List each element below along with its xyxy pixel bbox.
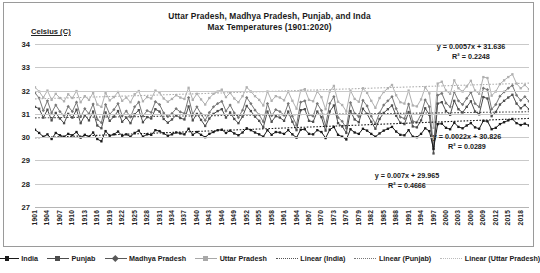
legend-label: Linear (Uttar Pradesh) [465,254,540,263]
y-axis-tick-28: 28 [22,179,30,188]
chart-legend: IndiaPunjabMadhya PradeshUttar PradeshLi… [3,246,534,270]
x-axis-tick-1922: 1922 [119,210,126,225]
x-axis-tick-1973: 1973 [331,210,338,225]
x-axis-tick-1967: 1967 [306,210,313,225]
x-axis-tick-1910: 1910 [69,210,76,225]
chart-frame: Uttar Pradesh, Madhya Pradesh, Punjab, a… [3,2,534,269]
x-axis-tick-2015: 2015 [505,210,512,225]
x-axis-tick-1970: 1970 [318,210,325,225]
gridline-31: 31 [35,114,529,115]
x-axis-tick-1961: 1961 [281,210,288,225]
legend-item-linear-india[interactable]: Linear (India) [276,254,346,263]
gridline-33: 33 [35,67,529,68]
x-axis-tick-1925: 1925 [132,210,139,225]
y-axis-tick-32: 32 [22,86,30,95]
trendline-equation-india: y = 0.007x + 29.965 R² = 0.4666 [352,171,462,190]
legend-marker-icon [5,256,10,261]
x-axis-tick-1907: 1907 [57,210,64,225]
gridline-32: 32 [35,91,529,92]
x-axis-tick-1994: 1994 [418,210,425,225]
x-axis-tick-1901: 1901 [32,210,39,225]
x-axis-tick-1946: 1946 [219,210,226,225]
x-axis-tick-1916: 1916 [94,210,101,225]
legend-item-india[interactable]: India [0,254,38,263]
x-axis-tick-1952: 1952 [244,210,251,225]
legend-key-icon [354,255,376,262]
legend-label: Madhya Pradesh [129,254,186,263]
x-axis-tick-1955: 1955 [256,210,263,225]
x-axis-tick-1997: 1997 [431,210,438,225]
legend-label: Punjab [72,254,96,263]
legend-label: Uttar Pradesh [220,254,267,263]
y-axis-tick-27: 27 [22,203,30,212]
x-axis-tick-2012: 2012 [493,210,500,225]
legend-key-icon [105,255,127,262]
y-axis-tick-30: 30 [22,133,30,142]
legend-label: Linear (Punjab) [379,254,431,263]
legend-key-icon [47,255,69,262]
r2-text-punjab: R² = 0.0289 [412,142,522,152]
x-axis-tick-1958: 1958 [269,210,276,225]
x-axis-tick-1934: 1934 [169,210,176,225]
y-axis-tick-29: 29 [22,156,30,165]
equation-text-india: y = 0.007x + 29.965 [352,171,462,181]
legend-key-icon [0,255,19,262]
chart-title: Uttar Pradesh, Madhya Pradesh, Punjab, a… [4,11,535,33]
x-axis-tick-1940: 1940 [194,210,201,225]
legend-marker-icon [112,255,118,261]
x-axis-tick-1943: 1943 [206,210,213,225]
trendline-equation-uttar-pradesh: y = 0.0057x + 31.636 R² = 0.2248 [416,42,526,61]
y-axis-tick-33: 33 [22,63,30,72]
x-axis-tick-1982: 1982 [368,210,375,225]
x-axis-tick-1919: 1919 [107,210,114,225]
x-axis-tick-1988: 1988 [393,210,400,225]
legend-label: Linear (India) [300,254,345,263]
r2-text-india: R² = 0.4666 [352,181,462,191]
legend-key-icon [276,255,298,262]
legend-item-punjab[interactable]: Punjab [47,254,95,263]
legend-item-linear-uttar-pradesh[interactable]: Linear (Uttar Pradesh) [440,254,540,263]
x-axis-tick-1979: 1979 [356,210,363,225]
r2-text-uttar-pradesh: R² = 0.2248 [416,52,526,62]
trendline-equation-punjab: y = 0.0022x + 30.826 R² = 0.0289 [412,132,522,151]
x-axis-line [35,207,529,208]
equation-text-uttar-pradesh: y = 0.0057x + 31.636 [416,42,526,52]
x-axis-tick-1928: 1928 [144,210,151,225]
x-axis-tick-1949: 1949 [231,210,238,225]
x-axis-tick-1964: 1964 [294,210,301,225]
x-axis-tick-1976: 1976 [343,210,350,225]
legend-marker-icon [203,256,208,261]
x-axis-tick-1937: 1937 [181,210,188,225]
legend-item-madhya-pradesh[interactable]: Madhya Pradesh [105,254,187,263]
y-axis-tick-34: 34 [22,40,30,49]
legend-key-icon [195,255,217,262]
chart-title-line-2: Max Temperatures (1901:2020) [4,22,535,33]
legend-item-linear-punjab[interactable]: Linear (Punjab) [354,254,431,263]
x-axis-tick-1985: 1985 [381,210,388,225]
x-axis-tick-1904: 1904 [44,210,51,225]
gridline-29: 29 [35,160,529,161]
legend-marker-icon [55,256,60,261]
x-axis-tick-2009: 2009 [480,210,487,225]
y-axis-title: Celsius (C) [31,27,71,36]
x-axis-tick-1913: 1913 [82,210,89,225]
x-axis-tick-2006: 2006 [468,210,475,225]
equation-text-punjab: y = 0.0022x + 30.826 [412,132,522,142]
y-axis-tick-31: 31 [22,109,30,118]
legend-item-uttar-pradesh[interactable]: Uttar Pradesh [195,254,267,263]
x-axis-tick-2018: 2018 [518,210,525,225]
x-axis-tick-2003: 2003 [455,210,462,225]
x-axis-tick-1931: 1931 [157,210,164,225]
chart-title-line-1: Uttar Pradesh, Madhya Pradesh, Punjab, a… [4,11,535,22]
x-axis-tick-2000: 2000 [443,210,450,225]
legend-label: India [21,254,38,263]
legend-key-icon [440,255,462,262]
x-axis-tick-1991: 1991 [406,210,413,225]
